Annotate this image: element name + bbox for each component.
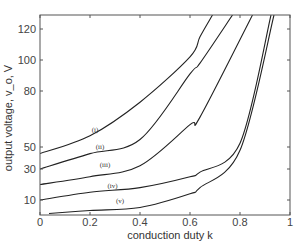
axis-ticks: 00.20.40.60.8110305080100120 [18,15,293,228]
curve-4 [40,15,271,200]
y-axis-label: output voltage, v_o, V [2,64,14,171]
curve-label-5: (v) [116,197,125,205]
curve-labels: (i)(ii)(iii)(iv)(v) [92,126,125,205]
y-tick-label: 100 [18,54,36,66]
y-tick-label: 120 [18,23,36,35]
plot-frame [40,15,290,215]
x-axis-label: conduction duty k [127,229,213,241]
y-tick-label: 10 [24,194,36,206]
y-tick-label: 80 [24,85,36,97]
y-tick-label: 50 [24,141,36,153]
curve-label-1: (i) [92,126,99,134]
y-tick-label: 30 [24,163,36,175]
x-tick-label: 0.8 [232,216,247,228]
x-tick-label: 1 [287,216,293,228]
x-tick-label: 0 [37,216,43,228]
x-tick-label: 0.6 [182,216,197,228]
chart-curves [40,15,274,214]
x-tick-label: 0.2 [82,216,97,228]
line-chart: 00.20.40.60.8110305080100120 (i)(ii)(iii… [0,0,305,250]
curve-2 [40,15,233,169]
curve-label-2: (ii) [96,143,105,151]
curve-label-3: (iii) [100,161,111,169]
x-tick-label: 0.4 [132,216,147,228]
curve-1 [40,15,213,154]
curve-label-4: (iv) [107,182,118,190]
